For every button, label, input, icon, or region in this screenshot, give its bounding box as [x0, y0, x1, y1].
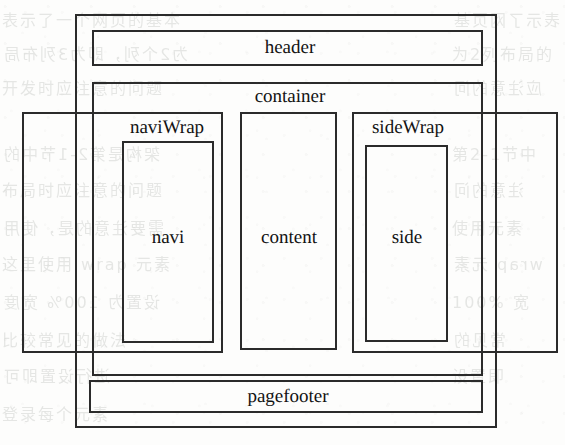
layout-box-diagram: 表示了一个网页的基本为2个列，即为3列布局开发时应注意的问题架构是第2-1节中的… — [0, 0, 565, 445]
label-header: header — [245, 38, 335, 58]
box-content — [240, 112, 337, 350]
box-pagefooter — [89, 380, 483, 413]
box-side — [365, 145, 448, 342]
box-navi — [122, 141, 214, 343]
